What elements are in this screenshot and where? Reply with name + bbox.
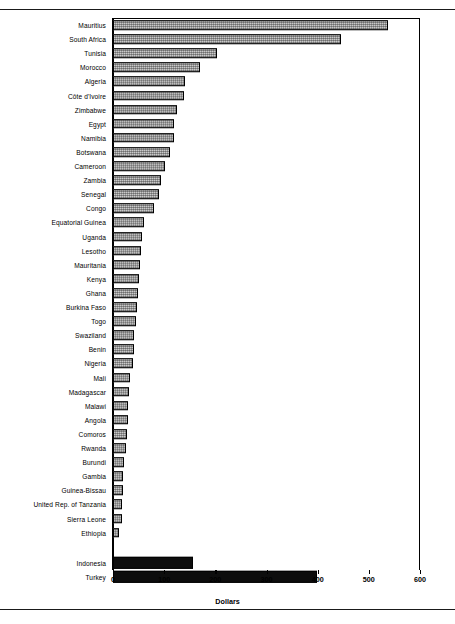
bar-row: Nigeria [0, 356, 455, 370]
bar-category-label: Madagascar [69, 388, 106, 395]
bar [113, 457, 124, 467]
bar-row: Rwanda [0, 441, 455, 455]
bar [113, 147, 170, 157]
bar-row: Egypt [0, 117, 455, 131]
bar [113, 20, 388, 30]
bar-row: Indonesia [0, 556, 455, 570]
bar-row: Madagascar [0, 385, 455, 399]
bar-category-label: Uganda [82, 233, 106, 240]
bar-category-label: Angola [85, 416, 106, 423]
bar-category-label: South Africa [69, 36, 106, 43]
bar-category-label: Lesotho [82, 247, 106, 254]
bar-row: Equatorial Guinea [0, 215, 455, 229]
bar [113, 429, 127, 439]
bar-row: Angola [0, 413, 455, 427]
bar [113, 34, 341, 44]
bar [113, 77, 185, 87]
bar-category-label: Togo [91, 318, 106, 325]
bar-row: Ghana [0, 286, 455, 300]
bar [113, 486, 123, 496]
bar [113, 359, 133, 369]
bar-row: Congo [0, 201, 455, 215]
bar-category-label: Burundi [83, 459, 106, 466]
chart-figure: MauritiusSouth AfricaTunisiaMoroccoAlger… [0, 0, 455, 624]
bar-category-label: Côte d'Ivoire [68, 92, 106, 99]
bar-category-label: Comoros [79, 430, 106, 437]
bar [113, 557, 193, 569]
bar-category-label: Ghana [86, 289, 106, 296]
bar [113, 415, 128, 425]
bar [113, 105, 177, 115]
x-tick-label: 0 [111, 575, 115, 584]
x-tick-label: 300 [261, 575, 273, 584]
bar-row: Malawi [0, 399, 455, 413]
x-tick-mark [420, 570, 421, 574]
bar [113, 63, 200, 73]
bar-row: Zambia [0, 173, 455, 187]
bar-row: Togo [0, 314, 455, 328]
bar [113, 387, 129, 397]
bar-category-label: Botswana [76, 148, 106, 155]
x-tick-mark [215, 570, 216, 574]
bar-category-label: Burkina Faso [66, 304, 106, 311]
bar-row: Mali [0, 371, 455, 385]
bar-category-label: Tunisia [84, 50, 106, 57]
bar-category-label: Egypt [89, 120, 106, 127]
bar-category-label: Mauritania [74, 261, 106, 268]
x-tick-label: 100 [158, 575, 170, 584]
bar [113, 500, 122, 510]
bar-category-label: Congo [86, 205, 106, 212]
bar [113, 316, 136, 326]
bar-category-label: Namibia [81, 134, 106, 141]
bar-category-label: Zimbabwe [75, 106, 106, 113]
bar-category-label: Mali [94, 374, 107, 381]
bar-category-label: Gambia [82, 473, 106, 480]
bar-row: Benin [0, 342, 455, 356]
bar [113, 119, 174, 129]
bar-row: Namibia [0, 131, 455, 145]
bar-category-label: Rwanda [81, 445, 106, 452]
bar-category-label: Equatorial Guinea [52, 219, 107, 226]
bar-row: Gambia [0, 469, 455, 483]
bar [113, 260, 140, 270]
bar-row: Burundi [0, 455, 455, 469]
x-tick-label: 200 [209, 575, 221, 584]
bar-category-label: Indonesia [77, 559, 107, 566]
bar-category-label: Algeria [85, 78, 106, 85]
bar-row: Uganda [0, 230, 455, 244]
bar-category-label: Zambia [83, 177, 106, 184]
bar-rows: MauritiusSouth AfricaTunisiaMoroccoAlger… [0, 18, 455, 570]
bar-row: Zimbabwe [0, 103, 455, 117]
bar [113, 48, 217, 58]
x-tick-mark [369, 570, 370, 574]
bar-category-label: Guinea-Bissau [61, 487, 106, 494]
bar [113, 133, 174, 143]
bar-row: Tunisia [0, 46, 455, 60]
page-rule-bottom [0, 609, 455, 610]
bar-category-label: Kenya [87, 275, 106, 282]
bar [113, 443, 126, 453]
bar-category-label: Benin [89, 346, 106, 353]
x-axis-ticks: 0100200300400500600 [0, 570, 455, 580]
bar [113, 401, 128, 411]
bar-row: Morocco [0, 60, 455, 74]
x-tick-mark [164, 570, 165, 574]
bar [113, 218, 144, 228]
bar-row: Sierra Leone [0, 512, 455, 526]
bar [113, 514, 122, 524]
x-tick-label: 600 [414, 575, 426, 584]
x-tick-mark [267, 570, 268, 574]
bar [113, 345, 134, 355]
bar-row: Comoros [0, 427, 455, 441]
bar-row: Cameroon [0, 159, 455, 173]
bar-category-label: United Rep. of Tanzania [33, 501, 106, 508]
bar-row: Guinea-Bissau [0, 483, 455, 497]
x-axis-title: Dollars [0, 597, 455, 606]
bar-category-label: Nigeria [84, 360, 106, 367]
bar-category-label: Swaziland [75, 332, 106, 339]
bar [113, 204, 154, 214]
bar-row: Swaziland [0, 328, 455, 342]
x-tick-mark [318, 570, 319, 574]
bar-row: United Rep. of Tanzania [0, 497, 455, 511]
x-tick-label: 400 [312, 575, 324, 584]
